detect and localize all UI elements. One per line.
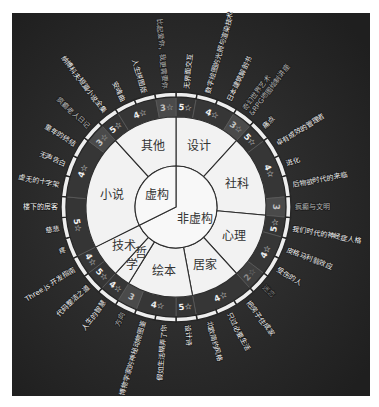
category-label: 小说 (100, 187, 124, 202)
book-segment[interactable] (61, 196, 66, 217)
rating-label: 3 (271, 204, 281, 210)
category-label: 绘本 (152, 263, 176, 278)
category-label: 设计 (187, 139, 211, 153)
root-ring (135, 166, 217, 248)
book-segment[interactable] (286, 196, 291, 217)
rating-label: 3☆ (160, 102, 175, 113)
category-label-char: 学 (126, 257, 138, 272)
root-label: 虚构 (145, 187, 169, 202)
rating-label: 5☆ (178, 102, 193, 113)
category-label: 居家 (193, 257, 217, 272)
category-label: 技术 (112, 239, 136, 253)
category-label: 社科 (225, 176, 249, 191)
category-label: 其他 (141, 139, 165, 153)
rating-label: 5☆ (178, 301, 193, 312)
book-label: 楼下的房客 (23, 202, 58, 211)
book-label: 疯癫与文明 (295, 202, 330, 211)
category-label: 心理 (222, 229, 246, 243)
sunburst-chart: 无界面交互5☆数字绘图的光照与渲染技术日本建筑解剖书4☆奇幻世界艺术&RPG地图… (0, 0, 379, 407)
root-label: 非虚构 (177, 211, 213, 226)
